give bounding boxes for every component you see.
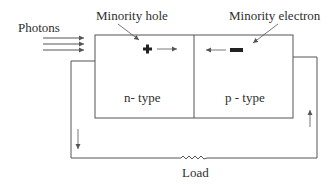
right-wire — [207, 57, 317, 158]
photon-arrows-icon — [43, 38, 84, 50]
left-wire — [71, 61, 181, 158]
minority-hole-label: Minority hole — [96, 9, 168, 22]
minority-hole-pointer — [118, 24, 139, 40]
hole-plus-icon — [143, 45, 152, 54]
load-label: Load — [182, 166, 209, 179]
minority-electron-label: Minority electron — [229, 9, 320, 22]
load-resistor-icon — [181, 156, 207, 159]
photons-label: Photons — [18, 21, 60, 34]
minority-electron-pointer — [253, 24, 278, 43]
p-type-label: p - type — [225, 91, 265, 104]
n-type-label: n- type — [124, 91, 160, 104]
electron-minus-icon — [230, 48, 243, 52]
